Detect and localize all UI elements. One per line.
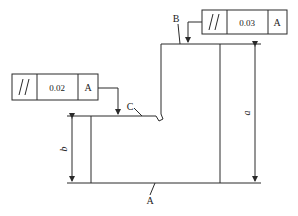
frame-top-tolerance: 0.03 <box>239 18 255 28</box>
frame-left-tolerance: 0.02 <box>49 83 65 93</box>
dimension-a-label: a <box>241 111 252 116</box>
dimension-b: b <box>58 116 91 183</box>
drawing-canvas: 0.03 A 0.02 A B C A a b <box>0 0 298 216</box>
label-datum-a: A <box>146 195 154 206</box>
frame-top: 0.03 A <box>188 10 287 42</box>
part-outline <box>91 44 220 183</box>
label-b-surface: B <box>173 13 180 24</box>
frame-left-datum: A <box>84 82 92 93</box>
dimension-a: a <box>220 44 261 183</box>
frame-left: 0.02 A <box>12 74 118 114</box>
frame-top-datum: A <box>273 17 281 28</box>
label-c-surface: C <box>127 101 134 112</box>
dimension-b-label: b <box>58 147 69 152</box>
